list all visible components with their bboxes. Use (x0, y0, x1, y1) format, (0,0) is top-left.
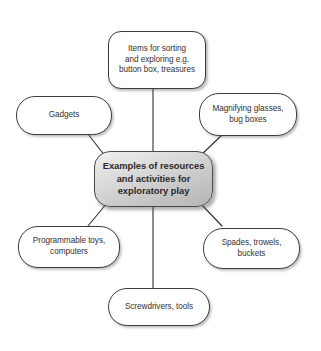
node-top-label: Items for sorting and exploring e.g. but… (115, 44, 199, 76)
node-lower-right-label: Spades, trowels, buckets (218, 238, 286, 259)
node-bottom: Screwdrivers, tools (108, 288, 210, 326)
node-lower-right: Spades, trowels, buckets (203, 228, 300, 269)
diagram-canvas: Examples of resources and activities for… (0, 0, 321, 351)
center-node-label: Examples of resources and activities for… (99, 160, 209, 197)
node-upper-right: Magnifying glasses, bug boxes (199, 93, 297, 136)
center-node: Examples of resources and activities for… (94, 151, 213, 207)
node-left: Gadgets (16, 96, 112, 135)
node-lower-left-label: Programmable toys, computers (29, 236, 109, 257)
node-bottom-label: Screwdrivers, tools (121, 302, 197, 313)
node-lower-left: Programmable toys, computers (18, 226, 120, 268)
node-left-label: Gadgets (45, 110, 84, 121)
edge-center-lower-right (200, 203, 222, 226)
edge-center-lower-left (88, 203, 107, 226)
node-top: Items for sorting and exploring e.g. but… (108, 31, 206, 89)
node-upper-right-label: Magnifying glasses, bug boxes (209, 104, 288, 125)
